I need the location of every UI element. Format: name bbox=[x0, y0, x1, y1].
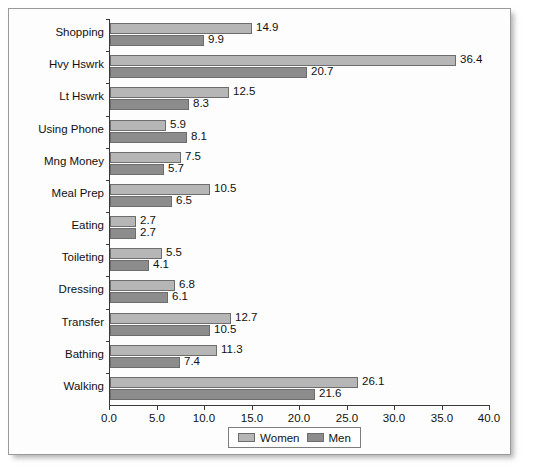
category-label: Dressing bbox=[12, 283, 104, 295]
y-axis-tick bbox=[106, 341, 110, 342]
bar-value-label: 12.5 bbox=[233, 86, 255, 97]
x-axis-tick bbox=[442, 406, 443, 410]
chart-legend: WomenMen bbox=[228, 427, 361, 448]
category-label: Transfer bbox=[12, 316, 104, 328]
category-label: Shopping bbox=[12, 26, 104, 38]
bar-women bbox=[110, 345, 217, 356]
bar-value-label: 7.4 bbox=[184, 356, 200, 367]
bar-women bbox=[110, 216, 136, 227]
bar-value-label: 2.7 bbox=[140, 227, 156, 238]
bar-value-label: 10.5 bbox=[214, 183, 236, 194]
bar-value-label: 26.1 bbox=[362, 376, 384, 387]
category-label: Lt Hswrk bbox=[12, 90, 104, 102]
bar-women bbox=[110, 120, 166, 131]
x-axis-tick-label: 20.0 bbox=[288, 412, 310, 424]
legend-item-men: Men bbox=[307, 432, 351, 444]
category-label: Bathing bbox=[12, 348, 104, 360]
bar-men bbox=[110, 357, 180, 368]
category-label: Walking bbox=[12, 380, 104, 392]
bar-men bbox=[110, 196, 172, 207]
x-axis-tick-label: 15.0 bbox=[241, 412, 263, 424]
x-axis-tick bbox=[299, 406, 300, 410]
legend-swatch-men bbox=[307, 433, 324, 442]
x-axis-tick-label: 35.0 bbox=[431, 412, 453, 424]
bar-men bbox=[110, 35, 204, 46]
bar-women bbox=[110, 23, 252, 34]
bar-value-label: 6.5 bbox=[176, 195, 192, 206]
y-axis-tick bbox=[106, 244, 110, 245]
bar-value-label: 5.7 bbox=[168, 163, 184, 174]
bar-value-label: 20.7 bbox=[311, 66, 333, 77]
x-axis-tick-label: 5.0 bbox=[149, 412, 165, 424]
y-axis-tick bbox=[106, 19, 110, 20]
bar-value-label: 21.6 bbox=[319, 388, 341, 399]
y-axis-tick bbox=[106, 51, 110, 52]
legend-label: Women bbox=[260, 432, 299, 444]
bar-value-label: 6.1 bbox=[172, 291, 188, 302]
bar-men bbox=[110, 99, 189, 110]
category-label: Using Phone bbox=[12, 123, 104, 135]
bar-men bbox=[110, 389, 315, 400]
bar-men bbox=[110, 325, 210, 336]
bar-women bbox=[110, 184, 210, 195]
y-axis-tick bbox=[106, 116, 110, 117]
x-axis-tick-label: 40.0 bbox=[478, 412, 500, 424]
bar-value-label: 8.1 bbox=[191, 131, 207, 142]
bar-value-label: 6.8 bbox=[179, 279, 195, 290]
bar-men bbox=[110, 132, 187, 143]
plot-area: Shopping14.99.9Hvy Hswrk36.420.7Lt Hswrk… bbox=[109, 19, 489, 405]
category-label: Eating bbox=[12, 219, 104, 231]
category-label: Hvy Hswrk bbox=[12, 58, 104, 70]
bar-women bbox=[110, 280, 175, 291]
x-axis-tick bbox=[489, 406, 490, 410]
bar-value-label: 36.4 bbox=[460, 54, 482, 65]
y-axis-tick bbox=[106, 212, 110, 213]
x-axis-tick-label: 0.0 bbox=[101, 412, 117, 424]
bar-men bbox=[110, 164, 164, 175]
bar-value-label: 7.5 bbox=[185, 151, 201, 162]
bar-men bbox=[110, 67, 307, 78]
x-axis-tick bbox=[204, 406, 205, 410]
y-axis-tick bbox=[106, 180, 110, 181]
bar-value-label: 8.3 bbox=[193, 98, 209, 109]
bar-value-label: 4.1 bbox=[153, 259, 169, 270]
category-label: Meal Prep bbox=[12, 187, 104, 199]
bar-men bbox=[110, 260, 149, 271]
x-axis-tick bbox=[157, 406, 158, 410]
bar-value-label: 10.5 bbox=[214, 324, 236, 335]
bar-women bbox=[110, 313, 231, 324]
bar-value-label: 2.7 bbox=[140, 215, 156, 226]
legend-swatch-women bbox=[238, 433, 255, 442]
figure-frame: Shopping14.99.9Hvy Hswrk36.420.7Lt Hswrk… bbox=[8, 8, 511, 455]
x-axis-tick-label: 25.0 bbox=[336, 412, 358, 424]
y-axis-tick bbox=[106, 373, 110, 374]
bar-value-label: 9.9 bbox=[208, 34, 224, 45]
bar-women bbox=[110, 87, 229, 98]
bar-value-label: 5.5 bbox=[166, 247, 182, 258]
x-axis-tick-label: 30.0 bbox=[383, 412, 405, 424]
category-label: Mng Money bbox=[12, 155, 104, 167]
legend-item-women: Women bbox=[238, 432, 299, 444]
legend-label: Men bbox=[329, 432, 351, 444]
y-axis-tick bbox=[106, 276, 110, 277]
x-axis-tick bbox=[252, 406, 253, 410]
category-label: Toileting bbox=[12, 251, 104, 263]
x-axis-tick bbox=[109, 406, 110, 410]
x-axis-tick bbox=[347, 406, 348, 410]
y-axis-tick bbox=[106, 309, 110, 310]
bar-men bbox=[110, 292, 168, 303]
x-axis-tick-label: 10.0 bbox=[193, 412, 215, 424]
x-axis-tick bbox=[394, 406, 395, 410]
bar-men bbox=[110, 228, 136, 239]
bar-value-label: 11.3 bbox=[221, 344, 243, 355]
bar-value-label: 14.9 bbox=[256, 22, 278, 33]
y-axis-tick bbox=[106, 148, 110, 149]
y-axis-tick bbox=[106, 83, 110, 84]
bar-value-label: 5.9 bbox=[170, 119, 186, 130]
bar-women bbox=[110, 55, 456, 66]
bar-value-label: 12.7 bbox=[235, 312, 257, 323]
